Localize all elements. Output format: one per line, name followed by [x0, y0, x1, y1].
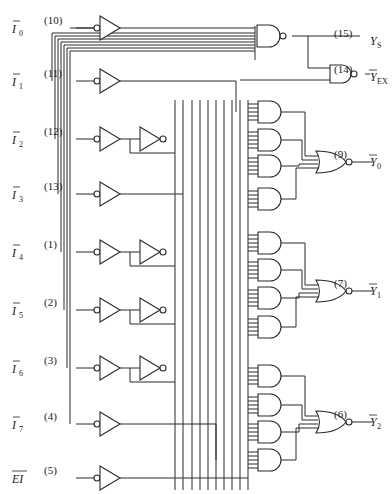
and-gate-icon [258, 259, 281, 281]
input-label-7: I7(4) [11, 410, 57, 434]
inverter-5 [140, 298, 166, 322]
and-gate-icon [258, 394, 281, 416]
inversion-bubble-icon [94, 365, 100, 371]
svg-text:2: 2 [377, 422, 381, 431]
pin-number: (4) [44, 410, 57, 423]
inverter-gate-icon [140, 298, 160, 322]
input-buffer-2 [94, 127, 120, 151]
pin-number: (1) [44, 238, 57, 251]
ys-nand-gate [257, 25, 286, 47]
output-label-s: (15)YS [334, 27, 381, 50]
inversion-bubble-icon [160, 365, 166, 371]
and-gate-icon [258, 449, 281, 471]
inversion-bubble-icon [346, 288, 352, 294]
buffer-gate-icon [100, 412, 120, 436]
input-label-ei: EI(5) [11, 464, 57, 486]
svg-text:3: 3 [19, 195, 23, 204]
priority-encoder-circuit: I0(10)I1(11)I2(12)I3(13)I4(1)I5(2)I6(3)I… [0, 0, 392, 494]
input-buffer-6 [94, 356, 120, 380]
svg-text:0: 0 [377, 162, 381, 171]
input-label-4: I4(1) [11, 238, 57, 262]
inversion-bubble-icon [94, 191, 100, 197]
and-gate-y0-2 [258, 155, 281, 177]
pin-number: (2) [44, 296, 57, 309]
output-label-0: (9)Y0 [334, 148, 381, 171]
and-gate-y1-2 [258, 287, 281, 309]
pin-number: (11) [44, 67, 62, 80]
svg-text:0: 0 [19, 29, 23, 38]
buffer-gate-icon [100, 466, 120, 490]
pin-number: (6) [334, 408, 347, 421]
and-gate-y0-3 [258, 188, 281, 210]
inversion-bubble-icon [94, 25, 100, 31]
input-label-6: I6(3) [11, 354, 57, 378]
and-gate-y2-3 [258, 449, 281, 471]
input-label-5: I5(2) [11, 296, 57, 320]
and-gate-icon [258, 155, 281, 177]
svg-text:6: 6 [19, 369, 23, 378]
input-buffer-7 [94, 412, 120, 436]
svg-text:I: I [11, 133, 17, 147]
output-label-2: (6)Y2 [334, 408, 381, 431]
and-gate-y2-2 [258, 421, 281, 443]
inversion-bubble-icon [160, 307, 166, 313]
inversion-bubble-icon [94, 78, 100, 84]
and-gate-y1-0 [258, 232, 281, 254]
input-label-3: I3(13) [11, 180, 63, 204]
svg-text:EI: EI [11, 472, 24, 486]
inversion-bubble-icon [160, 249, 166, 255]
and-gate-icon [258, 287, 281, 309]
nand-gate-icon [257, 25, 280, 47]
svg-text:EX: EX [377, 77, 388, 86]
buffer-gate-icon [100, 127, 120, 151]
input-buffer-8 [94, 466, 120, 490]
inversion-bubble-icon [346, 159, 352, 165]
pin-number: (5) [44, 464, 57, 477]
pin-number: (9) [334, 148, 347, 161]
svg-text:I: I [11, 22, 17, 36]
svg-text:I: I [11, 304, 17, 318]
inversion-bubble-icon [94, 249, 100, 255]
pin-number: (13) [44, 180, 63, 193]
inverter-6 [140, 356, 166, 380]
inverter-gate-icon [140, 356, 160, 380]
buffer-gate-icon [100, 240, 120, 264]
and-gate-y2-0 [258, 365, 281, 387]
svg-text:5: 5 [19, 311, 23, 320]
svg-text:I: I [11, 188, 17, 202]
buffer-gate-icon [100, 182, 120, 206]
inversion-bubble-icon [160, 136, 166, 142]
svg-text:1: 1 [19, 82, 23, 91]
and-gate-y0-1 [258, 129, 281, 151]
and-gate-icon [258, 421, 281, 443]
pin-number: (3) [44, 354, 57, 367]
and-gate-icon [258, 129, 281, 151]
svg-text:4: 4 [19, 253, 23, 262]
and-gate-icon [258, 316, 281, 338]
pin-number: (14) [334, 63, 353, 76]
and-gate-icon [258, 188, 281, 210]
inversion-bubble-icon [94, 136, 100, 142]
and-gate-y0-0 [258, 101, 281, 123]
svg-text:I: I [11, 246, 17, 260]
inversion-bubble-icon [280, 33, 286, 39]
pin-number: (10) [44, 14, 63, 27]
gates [94, 16, 357, 490]
and-gate-y1-1 [258, 259, 281, 281]
inverter-gate-icon [140, 127, 160, 151]
svg-text:S: S [377, 41, 381, 50]
pin-number: (12) [44, 125, 63, 138]
input-buffer-5 [94, 298, 120, 322]
svg-text:I: I [11, 418, 17, 432]
output-label-1: (7)Y1 [334, 277, 381, 300]
and-gate-icon [258, 101, 281, 123]
inversion-bubble-icon [94, 475, 100, 481]
svg-text:1: 1 [377, 291, 381, 300]
and-gate-y1-3 [258, 316, 281, 338]
inversion-bubble-icon [94, 307, 100, 313]
input-buffer-1 [94, 69, 120, 93]
pin-number: (7) [334, 277, 347, 290]
pin-number: (15) [334, 27, 353, 40]
inversion-bubble-icon [94, 421, 100, 427]
inverter-gate-icon [140, 240, 160, 264]
